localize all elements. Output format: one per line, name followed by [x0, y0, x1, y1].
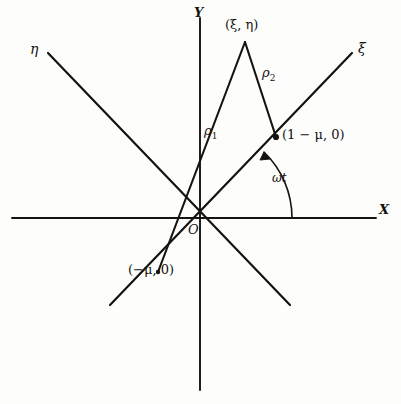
omega-t-label: ωt — [272, 172, 287, 184]
point-marker-primary — [273, 134, 279, 140]
primary-point-label: (1 − μ, 0) — [282, 128, 345, 141]
rho1-segment — [158, 42, 245, 272]
rho1-subscript: 1 — [212, 131, 218, 141]
rho2-label: ρ2 — [262, 66, 275, 83]
figure-canvas: Y X ξ η (ξ, η) ρ1 ρ2 (1 − μ, 0) (−μ, 0) … — [0, 0, 401, 404]
rho1-symbol: ρ — [204, 123, 212, 138]
rho2-symbol: ρ — [262, 65, 270, 80]
secondary-point-label: (−μ, 0) — [128, 263, 174, 276]
eta-axis-label: η — [30, 42, 38, 56]
xi-axis-label: ξ — [358, 41, 366, 55]
rho2-subscript: 2 — [270, 73, 276, 83]
omega-t-arc — [264, 152, 292, 218]
x-axis-label: X — [379, 203, 389, 216]
apex-point-label: (ξ, η) — [225, 18, 258, 31]
rho1-label: ρ1 — [204, 124, 217, 141]
diagram-svg — [0, 0, 401, 404]
y-axis-label: Y — [194, 6, 203, 19]
rho2-segment — [245, 42, 276, 137]
origin-label: O — [188, 223, 199, 236]
